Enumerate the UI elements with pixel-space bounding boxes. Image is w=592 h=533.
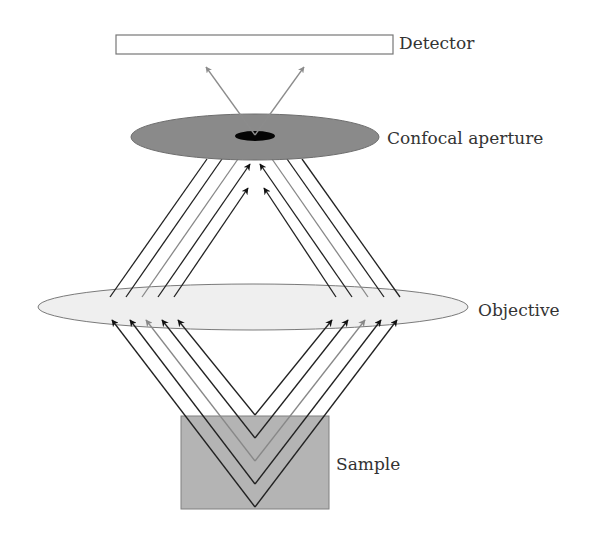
objective-lens — [38, 284, 468, 330]
sample-label: Sample — [336, 454, 400, 474]
detector — [116, 35, 393, 54]
confocal-aperture-label: Confocal aperture — [387, 128, 543, 148]
confocal-diagram — [0, 0, 592, 533]
detector-label: Detector — [399, 33, 474, 53]
sample — [181, 416, 329, 509]
rays-upper-left — [110, 159, 250, 297]
pinhole — [235, 131, 275, 141]
objective-label: Objective — [478, 300, 560, 320]
rays-upper-right — [260, 159, 400, 297]
